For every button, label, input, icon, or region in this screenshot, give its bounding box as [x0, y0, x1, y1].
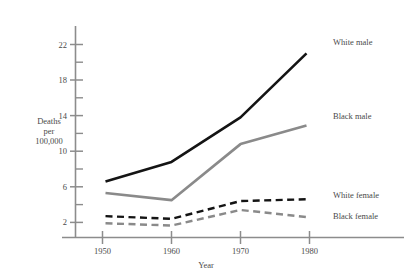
series-line-black-male — [106, 125, 307, 200]
y-axis-title: Deaths per 100,000 — [35, 116, 63, 146]
chart-container: 22 18 14 10 6 2 Deaths per 100,000 1950 … — [0, 0, 404, 277]
line-chart: 22 18 14 10 6 2 Deaths per 100,000 1950 … — [0, 0, 404, 277]
x-tick-label-1980: 1980 — [301, 246, 318, 256]
y-tick-label-6: 6 — [63, 182, 67, 192]
y-tick-label-10: 10 — [59, 146, 68, 156]
x-tick-label-1960: 1960 — [163, 246, 180, 256]
legend-group: White male Black male White female Black… — [333, 37, 379, 221]
y-tick-label-18: 18 — [59, 75, 68, 85]
series-line-white-female — [106, 199, 307, 219]
y-tick-label-2: 2 — [63, 217, 67, 227]
axis-group — [62, 26, 404, 238]
series-line-white-male — [106, 53, 307, 181]
y-tick-labels: 22 18 14 10 6 2 — [59, 40, 68, 228]
legend-label-white-male: White male — [333, 37, 373, 47]
y-axis-title-line3: 100,000 — [35, 136, 63, 146]
y-axis-title-line1: Deaths — [37, 116, 61, 126]
legend-label-white-female: White female — [333, 190, 379, 200]
legend-label-black-female: Black female — [333, 211, 378, 221]
y-minor-ticks — [76, 62, 84, 204]
series-line-black-female — [106, 210, 307, 226]
y-axis-title-line2: per — [44, 126, 55, 136]
x-axis-title: Year — [198, 260, 214, 270]
y-tick-label-22: 22 — [59, 40, 68, 50]
legend-label-black-male: Black male — [333, 111, 372, 121]
x-tick-labels: 1950 1960 1970 1980 — [94, 246, 318, 256]
series-group — [106, 53, 307, 225]
x-tick-label-1970: 1970 — [232, 246, 249, 256]
x-tick-label-1950: 1950 — [94, 246, 111, 256]
